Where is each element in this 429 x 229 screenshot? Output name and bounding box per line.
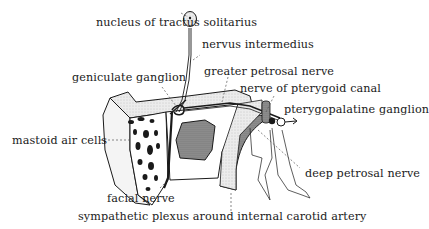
label-sympathetic-plexus: sympathetic plexus around internal carot… [78,211,367,222]
label-pterygopalatine-ganglion: pterygopalatine ganglion [284,104,429,115]
label-facial-nerve: facial nerve [107,193,175,204]
label-mastoid-air-cells: mastoid air cells [12,135,107,146]
label-nervus-intermedius: nervus intermedius [202,39,314,50]
label-nucleus-of-tractus-solitarius: nucleus of tractus solitarius [96,17,257,28]
label-nerve-of-pterygoid-canal: nerve of pterygoid canal [240,83,381,94]
label-geniculate-ganglion: geniculate ganglion [72,72,186,83]
label-greater-petrosal-nerve: greater petrosal nerve [204,66,334,77]
label-deep-petrosal-nerve: deep petrosal nerve [305,168,420,179]
